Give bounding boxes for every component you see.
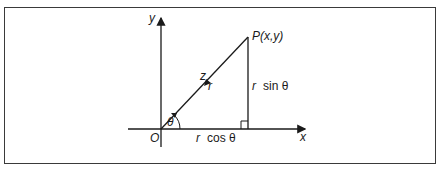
y-axis-label: y: [148, 11, 156, 25]
right-angle-marker: [241, 121, 248, 129]
r-cos-fn: cos θ: [207, 131, 236, 145]
polar-diagram: y x O P(x,y) z r θ r sin θ r cos θ: [0, 0, 442, 172]
theta-label: θ: [167, 115, 174, 129]
r-sin-var: r: [252, 79, 257, 93]
radius-label: r: [208, 79, 213, 93]
z-label: z: [199, 69, 206, 83]
r-cos-theta-label: r cos θ: [196, 128, 236, 145]
origin-label: O: [150, 131, 159, 145]
point-label: P(x,y): [252, 29, 283, 43]
r-sin-fn: sin θ: [263, 79, 289, 93]
x-axis-label: x: [299, 130, 307, 144]
r-sin-theta-label: r sin θ: [252, 76, 289, 93]
r-cos-var: r: [196, 131, 201, 145]
